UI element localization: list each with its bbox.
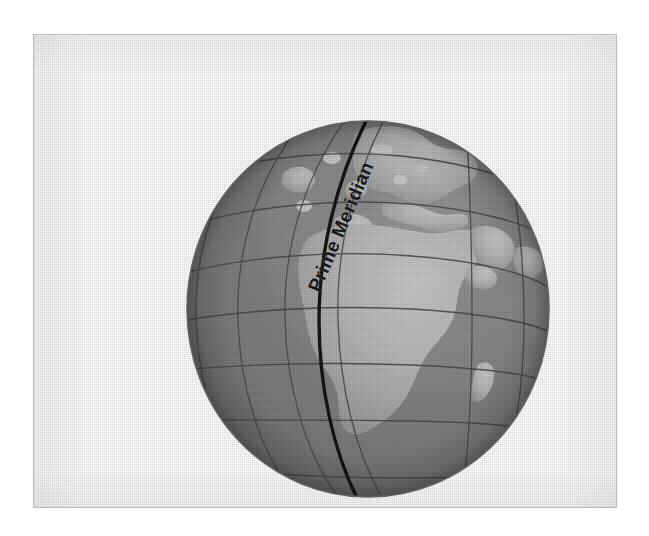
globe-illustration: Prime Meridian: [186, 120, 550, 498]
figure-frame: Prime Meridian: [33, 34, 617, 508]
globe-rim-shade: [187, 121, 549, 497]
globe-svg: [186, 120, 550, 498]
figure-root: Prime Meridian: [0, 0, 649, 536]
